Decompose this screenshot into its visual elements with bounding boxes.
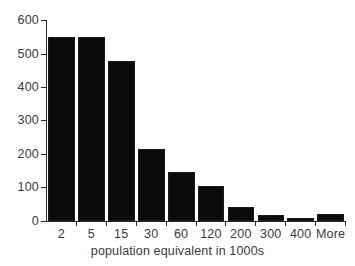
y-tick-label: 300 — [0, 114, 39, 127]
bar — [108, 61, 135, 221]
y-tick-label: 200 — [0, 148, 39, 161]
y-tick-mark — [41, 120, 46, 121]
x-tick-mark — [255, 222, 256, 227]
x-tick-mark — [136, 222, 137, 227]
x-tick-mark — [225, 222, 226, 227]
y-tick-mark — [41, 20, 46, 21]
y-tick-label: 400 — [0, 81, 39, 94]
bar — [258, 215, 285, 221]
x-tick-mark — [166, 222, 167, 227]
bar — [317, 214, 344, 221]
x-tick-mark — [345, 222, 346, 227]
y-tick-label: 600 — [0, 14, 39, 27]
y-tick-mark — [41, 54, 46, 55]
x-tick-mark — [315, 222, 316, 227]
plot-area — [47, 21, 346, 221]
x-tick-mark — [76, 222, 77, 227]
x-tick-mark — [106, 222, 107, 227]
y-tick-label: 500 — [0, 48, 39, 61]
bar — [168, 172, 195, 221]
bar — [228, 207, 255, 221]
y-tick-mark — [41, 221, 46, 222]
y-tick-mark — [41, 187, 46, 188]
y-tick-label: 100 — [0, 181, 39, 194]
y-tick-label: 0 — [0, 215, 39, 228]
bar — [198, 186, 225, 221]
x-tick-label: More — [309, 228, 353, 241]
x-axis-title: population equivalent in 1000s — [0, 244, 355, 258]
x-tick-mark — [196, 222, 197, 227]
bar — [287, 218, 314, 221]
bar — [48, 37, 75, 221]
histogram-figure: 0100200300400500600 25153060120200300400… — [0, 0, 355, 266]
y-tick-mark — [41, 154, 46, 155]
bar — [78, 37, 105, 221]
bar — [138, 149, 165, 221]
x-tick-mark — [285, 222, 286, 227]
y-tick-mark — [41, 87, 46, 88]
